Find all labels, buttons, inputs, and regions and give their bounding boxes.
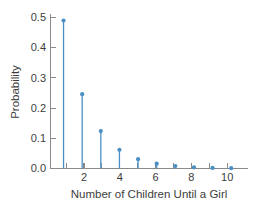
x-tick-label-8: 8 xyxy=(188,171,194,183)
stem-series xyxy=(61,18,233,170)
data-point-marker xyxy=(136,157,140,161)
y-tick-label-0: 0.0 xyxy=(31,162,46,174)
x-tick-label-2: 2 xyxy=(81,171,87,183)
y-tick-label-4: 0.4 xyxy=(31,41,46,53)
x-tick-label-10: 10 xyxy=(221,171,233,183)
data-point-marker xyxy=(80,92,84,96)
x-tick-label-6: 6 xyxy=(153,171,159,183)
data-point-marker xyxy=(117,148,121,152)
data-point-marker xyxy=(99,129,103,133)
data-point-marker xyxy=(192,165,196,169)
y-tick-label-5: 0.5 xyxy=(31,11,46,23)
data-point-marker xyxy=(229,166,233,170)
data-point-marker xyxy=(155,162,159,166)
x-axis-title: Number of Children Until a Girl xyxy=(71,188,228,200)
stem-plot-chart: 0.0 0.1 0.2 0.3 0.4 0.5 Probability 2 4 … xyxy=(0,0,264,210)
data-point-marker xyxy=(61,18,65,22)
x-tick-label-4: 4 xyxy=(117,171,123,183)
y-axis-title: Probability xyxy=(9,65,21,119)
y-tick-label-2: 0.2 xyxy=(31,102,46,114)
data-point-marker xyxy=(173,164,177,168)
y-tick-label-1: 0.1 xyxy=(31,132,46,144)
chart-canvas: 0.0 0.1 0.2 0.3 0.4 0.5 Probability 2 4 … xyxy=(0,0,264,210)
y-tick-label-3: 0.3 xyxy=(31,72,46,84)
data-point-marker xyxy=(210,166,214,170)
